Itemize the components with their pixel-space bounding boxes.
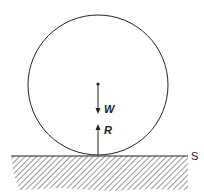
surface-label: S (191, 150, 198, 162)
weight-label: W (104, 103, 116, 115)
reaction-label: R (104, 124, 112, 136)
diagram-canvas: W R S (0, 0, 204, 195)
weight-arrow (96, 84, 101, 114)
ground-hatch (11, 156, 188, 191)
reaction-arrow (96, 124, 101, 155)
